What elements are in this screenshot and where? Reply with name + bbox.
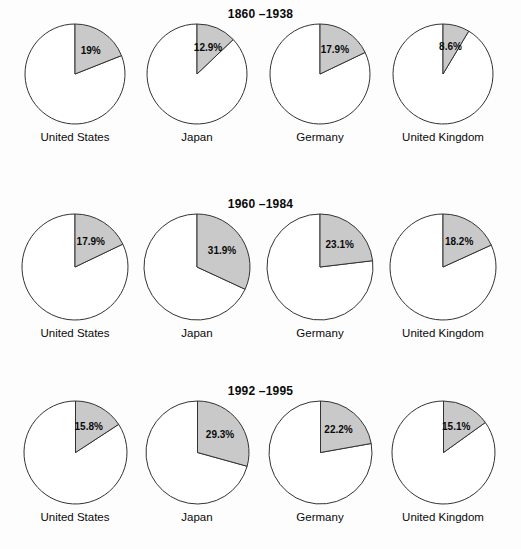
pie-cell: 8.6%United Kingdom <box>363 22 521 144</box>
pie-row: 17.9%United States31.9%Japan23.1%Germany… <box>0 212 521 344</box>
pie-chart[interactable]: 19% <box>23 22 127 126</box>
slice-percentage-label: 18.2% <box>445 237 473 247</box>
pie-chart[interactable]: 29.3% <box>144 399 251 506</box>
pie-row: 19%United States12.9%Japan17.9%Germany8.… <box>0 22 521 148</box>
country-label: United Kingdom <box>363 130 521 144</box>
slice-percentage-label: 15.8% <box>75 422 103 432</box>
country-label: United Kingdom <box>363 326 521 340</box>
slice-percentage-label: 29.3% <box>206 430 234 440</box>
slice-percentage-label: 22.2% <box>324 425 352 435</box>
pie-chart[interactable]: 17.9% <box>268 22 372 126</box>
slice-percentage-label: 23.1% <box>326 240 354 250</box>
pie-chart[interactable]: 18.2% <box>388 212 498 322</box>
chart-panel: 1860 –193819%United States12.9%Japan17.9… <box>0 6 521 148</box>
pie-row: 15.8%United States29.3%Japan22.2%Germany… <box>0 399 521 528</box>
panel-title: 1992 –1995 <box>0 383 521 399</box>
slice-percentage-label: 19% <box>81 46 101 56</box>
slice-percentage-label: 8.6% <box>439 42 462 52</box>
chart-panel: 1960 –198417.9%United States31.9%Japan23… <box>0 196 521 344</box>
slice-percentage-label: 17.9% <box>321 45 349 55</box>
panel-title: 1860 –1938 <box>0 6 521 22</box>
pie-chart[interactable]: 15.8% <box>22 399 129 506</box>
pie-chart[interactable]: 8.6% <box>391 22 495 126</box>
pie-chart[interactable]: 22.2% <box>267 399 374 506</box>
country-label: United Kingdom <box>363 510 521 524</box>
chart-panel: 1992 –199515.8%United States29.3%Japan22… <box>0 383 521 528</box>
pie-chart[interactable]: 23.1% <box>265 212 375 322</box>
slice-percentage-label: 17.9% <box>77 237 105 247</box>
pie-chart[interactable]: 15.1% <box>390 399 497 506</box>
slice-percentage-label: 15.1% <box>442 422 470 432</box>
pie-cell: 15.1%United Kingdom <box>363 399 521 524</box>
pie-chart-figure: 1860 –193819%United States12.9%Japan17.9… <box>0 0 521 549</box>
pie-chart[interactable]: 31.9% <box>142 212 252 322</box>
pie-cell: 18.2%United Kingdom <box>363 212 521 340</box>
pie-chart[interactable]: 17.9% <box>20 212 130 322</box>
panel-title: 1960 –1984 <box>0 196 521 212</box>
slice-percentage-label: 31.9% <box>208 246 236 256</box>
slice-percentage-label: 12.9% <box>194 43 222 53</box>
pie-chart[interactable]: 12.9% <box>145 22 249 126</box>
